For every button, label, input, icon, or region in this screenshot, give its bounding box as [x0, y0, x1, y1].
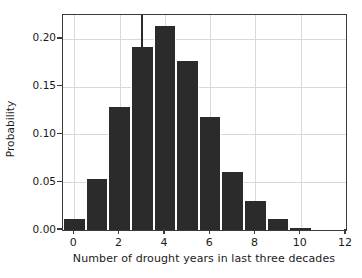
histogram-bar [289, 228, 312, 230]
gridline-horizontal [63, 39, 346, 40]
y-tick-label: 0.15 [33, 80, 56, 91]
y-tick-mark [57, 37, 62, 38]
histogram-bar [244, 201, 267, 230]
x-tick-mark [209, 229, 210, 234]
histogram-bar [154, 26, 177, 230]
y-tick-label: 0.20 [33, 32, 56, 43]
x-tick-label: 12 [330, 237, 360, 249]
x-tick-label: 6 [194, 237, 224, 249]
y-axis-tick-labels: 0.000.050.100.150.20 [16, 0, 56, 278]
observed-value-marker [141, 15, 143, 134]
x-tick-mark [299, 229, 300, 234]
x-tick-mark [73, 229, 74, 234]
histogram-bar [176, 61, 199, 230]
y-tick-label: 0.00 [33, 224, 56, 235]
histogram-bar [267, 219, 290, 230]
histogram-bar [86, 179, 109, 230]
histogram-bar [199, 117, 222, 230]
y-tick-label: 0.05 [33, 176, 56, 187]
x-tick-label: 8 [239, 237, 269, 249]
histogram-bar [108, 107, 131, 230]
x-axis-title: Number of drought years in last three de… [62, 252, 346, 265]
y-tick-label: 0.10 [33, 128, 56, 139]
y-tick-mark [57, 228, 62, 229]
x-tick-mark [163, 229, 164, 234]
y-tick-mark [57, 181, 62, 182]
x-tick-mark [254, 229, 255, 234]
histogram-bar [221, 172, 244, 230]
gridline-horizontal [63, 87, 346, 88]
plot-area [62, 14, 347, 231]
plot-inner [63, 15, 346, 230]
histogram-figure: Probability 0.000.050.100.150.20 0246810… [0, 0, 362, 278]
x-tick-mark [118, 229, 119, 234]
gridline-vertical [301, 15, 302, 230]
x-tick-label: 4 [149, 237, 179, 249]
y-tick-mark [57, 133, 62, 134]
gridline-vertical [74, 15, 75, 230]
x-tick-label: 2 [104, 237, 134, 249]
y-tick-mark [57, 85, 62, 86]
x-tick-label: 0 [58, 237, 88, 249]
x-tick-label: 10 [285, 237, 315, 249]
x-tick-mark [344, 229, 345, 234]
gridline-vertical [255, 15, 256, 230]
histogram-bar [63, 219, 86, 230]
